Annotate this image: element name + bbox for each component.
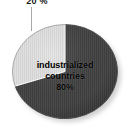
- slice-label-value: 80%: [22, 82, 108, 93]
- slice-label-line-2: countries: [22, 71, 108, 82]
- slice-label-line-1: industrialized: [22, 60, 108, 71]
- callout-label-20-percent: 20 %: [14, 0, 60, 6]
- pie-chart-figure: 20 %: [0, 0, 128, 126]
- slice-inner-label: industrialized countries 80%: [22, 60, 108, 93]
